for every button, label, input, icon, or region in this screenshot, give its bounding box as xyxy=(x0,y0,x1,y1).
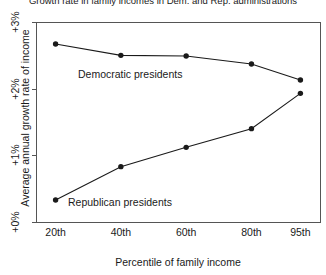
plot-frame xyxy=(37,23,321,223)
data-point-marker xyxy=(183,53,188,58)
plot-area xyxy=(0,0,326,275)
data-point-marker xyxy=(118,164,123,169)
data-point-marker xyxy=(298,77,303,82)
data-point-marker xyxy=(249,61,254,66)
data-point-marker xyxy=(53,41,58,46)
data-point-marker xyxy=(298,91,303,96)
data-series-layer xyxy=(53,41,303,202)
axis-tick-marks xyxy=(32,23,36,223)
chart-figure: Growth rate in family incomes in Dem. an… xyxy=(0,0,326,275)
data-point-marker xyxy=(53,197,58,202)
series-line xyxy=(56,93,301,200)
data-point-marker xyxy=(183,145,188,150)
data-point-marker xyxy=(118,53,123,58)
data-point-marker xyxy=(249,126,254,131)
series-label: Democratic presidents xyxy=(78,68,182,80)
series-label: Republican presidents xyxy=(68,196,172,208)
